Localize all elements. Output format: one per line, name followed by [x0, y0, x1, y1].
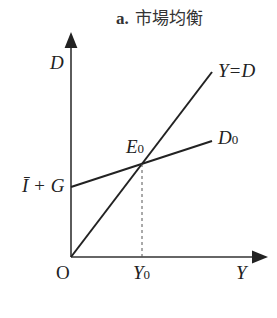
intercept-label: Ī + G: [22, 175, 64, 197]
x-axis-label: Y: [236, 262, 247, 284]
equilibrium-label: E0: [126, 136, 144, 158]
y-axis-label: D: [50, 52, 64, 74]
line-45-label: Y=D: [218, 60, 255, 82]
origin-label: O: [56, 262, 70, 284]
y0-label: Y0: [133, 262, 150, 284]
demand-curve-label: D0: [218, 127, 238, 149]
